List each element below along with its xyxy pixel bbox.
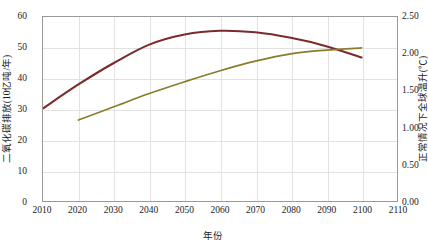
x-tick-label: 2060 [211, 205, 230, 215]
x-tick-label: 2050 [175, 205, 194, 215]
y-tick-label-left: 40 [18, 73, 28, 83]
y-tick-label-left: 60 [18, 11, 28, 21]
y-axis-left-title: 二氧化碳排放(10亿吨/年) [2, 55, 12, 163]
line-co2-emissions [43, 31, 362, 109]
x-tick-label: 2070 [246, 205, 265, 215]
y-tick-label-right: 0.50 [402, 160, 419, 170]
curve-layer [43, 17, 397, 201]
y-tick-label-right: 2.50 [402, 11, 419, 21]
y-axis-right-title: 正常情况下全球温升(℃) [418, 56, 428, 162]
y-tick-label-right: 2.00 [402, 48, 419, 58]
plot-area [42, 16, 398, 202]
y-tick-label-left: 50 [18, 42, 28, 52]
y-tick-label-left: 10 [18, 166, 28, 176]
x-tick-label: 2010 [33, 205, 52, 215]
y-tick-label-right: 1.50 [402, 85, 419, 95]
y-tick-label-left: 20 [18, 135, 28, 145]
y-tick-label-left: 0 [22, 197, 27, 207]
y-tick-label-left: 30 [18, 104, 28, 114]
x-tick-label: 2080 [282, 205, 301, 215]
x-tick-label: 2020 [68, 205, 87, 215]
y-tick-label-right: 0.00 [402, 197, 419, 207]
x-tick-label: 2040 [139, 205, 158, 215]
y-tick-label-right: 1.00 [402, 123, 419, 133]
x-axis-title: 年份 [203, 231, 223, 241]
x-tick-label: 2030 [104, 205, 123, 215]
x-tick-label: 2090 [317, 205, 336, 215]
x-tick-label: 2100 [353, 205, 372, 215]
